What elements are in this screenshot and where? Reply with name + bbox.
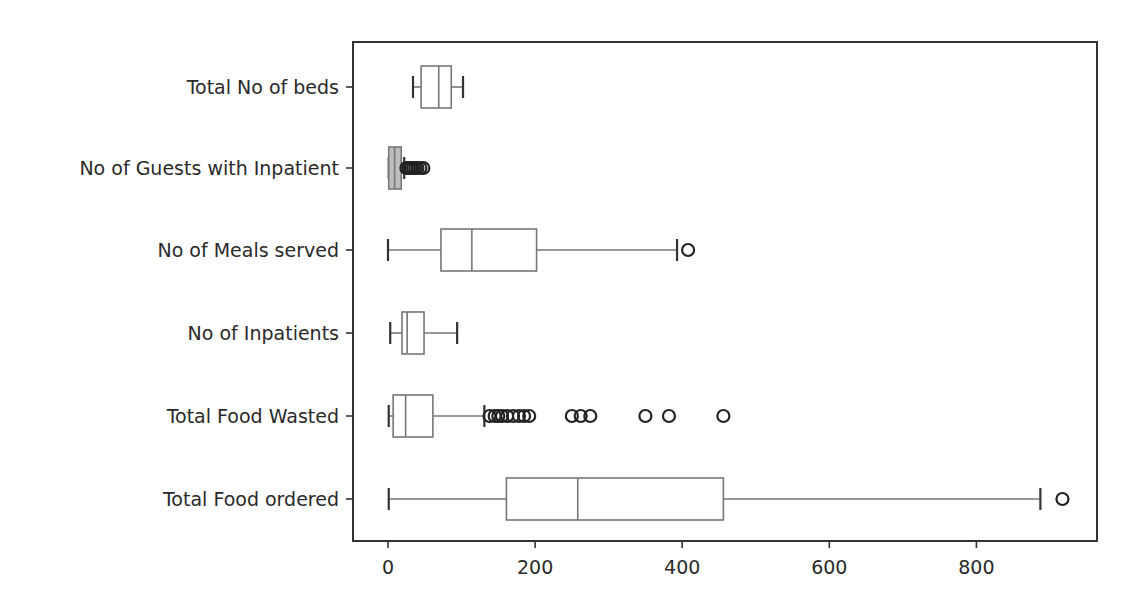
outlier-point xyxy=(682,244,694,256)
outlier-point xyxy=(639,410,651,422)
outlier-point xyxy=(663,410,675,422)
box-no-of-meals-served xyxy=(388,229,694,271)
boxplot-chart: Total No of bedsNo of Guests with Inpati… xyxy=(0,0,1126,605)
plot-frame xyxy=(353,42,1097,541)
box-no-of-inpatients xyxy=(390,312,457,354)
y-axis: Total No of bedsNo of Guests with Inpati… xyxy=(79,76,353,510)
x-tick-label: 400 xyxy=(664,556,700,578)
x-tick-label: 800 xyxy=(958,556,994,578)
box-no-of-guests-with-inpatient xyxy=(389,147,430,189)
box-total-food-wasted xyxy=(389,395,730,437)
y-tick-label: No of Meals served xyxy=(157,239,339,261)
outlier-point xyxy=(717,410,729,422)
iqr-box xyxy=(441,229,537,271)
iqr-box xyxy=(421,66,451,108)
y-tick-label: No of Guests with Inpatient xyxy=(79,157,339,179)
plot-border xyxy=(353,42,1097,541)
y-tick-label: Total Food ordered xyxy=(162,488,339,510)
x-tick-label: 200 xyxy=(517,556,553,578)
boxes xyxy=(388,66,1068,520)
iqr-box xyxy=(393,395,433,437)
x-tick-label: 0 xyxy=(382,556,394,578)
x-tick-label: 600 xyxy=(811,556,847,578)
y-tick-label: Total No of beds xyxy=(186,76,339,98)
box-total-food-ordered xyxy=(389,478,1069,520)
box-total-no-of-beds xyxy=(413,66,463,108)
x-axis: 0200400600800 xyxy=(382,541,995,578)
y-tick-label: Total Food Wasted xyxy=(166,405,339,427)
y-tick-label: No of Inpatients xyxy=(188,322,339,344)
iqr-box xyxy=(506,478,723,520)
outlier-point xyxy=(1056,493,1068,505)
iqr-box xyxy=(402,312,424,354)
